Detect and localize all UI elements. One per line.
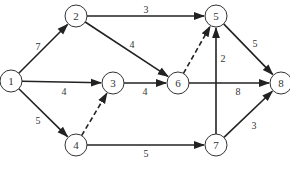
node-label: 4 bbox=[73, 139, 79, 151]
edge-weight-3-6: 4 bbox=[143, 86, 148, 97]
edge-4-3 bbox=[82, 93, 107, 135]
node-label: 8 bbox=[278, 77, 284, 89]
node-label: 3 bbox=[110, 77, 116, 89]
edge-1-3 bbox=[22, 81, 101, 83]
edge-6-5 bbox=[183, 26, 210, 73]
edge-weight-1-4: 5 bbox=[36, 115, 41, 126]
edge-5-8 bbox=[224, 24, 273, 74]
edge-weight-2-5: 3 bbox=[144, 4, 149, 15]
edge-1-4 bbox=[19, 89, 68, 137]
node-8: 8 bbox=[270, 72, 290, 94]
edge-weight-7-5: 2 bbox=[221, 53, 226, 64]
figure-caption-clipped bbox=[0, 163, 290, 170]
edge-weight-6-8: 8 bbox=[236, 86, 241, 97]
network-diagram: 74534482553 12345678 bbox=[0, 0, 290, 170]
edge-weight-1-3: 4 bbox=[62, 86, 67, 97]
edge-labels-layer: 74534482553 bbox=[36, 4, 258, 159]
node-label: 7 bbox=[213, 139, 219, 151]
nodes-layer: 12345678 bbox=[0, 5, 290, 156]
edge-weight-1-2: 7 bbox=[36, 41, 41, 52]
edge-7-8 bbox=[224, 91, 272, 137]
node-label: 2 bbox=[73, 10, 79, 22]
edges-layer bbox=[19, 16, 273, 145]
node-6: 6 bbox=[167, 72, 189, 94]
node-3: 3 bbox=[102, 72, 124, 94]
edge-1-2 bbox=[19, 24, 68, 73]
edge-2-6 bbox=[85, 22, 168, 76]
edge-weight-2-6: 4 bbox=[130, 39, 135, 50]
node-4: 4 bbox=[65, 134, 87, 156]
edge-weight-5-8: 5 bbox=[253, 38, 258, 49]
node-2: 2 bbox=[65, 5, 87, 27]
node-7: 7 bbox=[205, 134, 227, 156]
node-label: 6 bbox=[175, 77, 181, 89]
node-5: 5 bbox=[205, 5, 227, 27]
node-label: 5 bbox=[213, 10, 219, 22]
edge-weight-4-7: 5 bbox=[144, 148, 149, 159]
node-label: 1 bbox=[8, 75, 14, 87]
node-1: 1 bbox=[0, 70, 22, 92]
edge-weight-7-8: 3 bbox=[252, 120, 257, 131]
